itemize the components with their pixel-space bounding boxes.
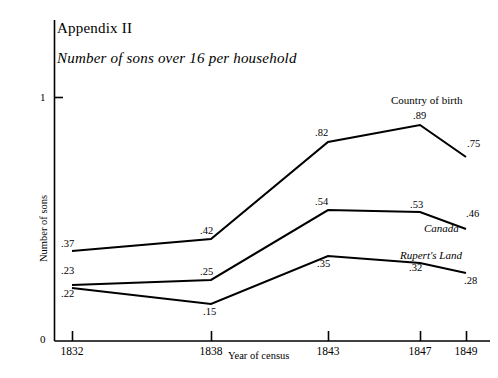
x-tick-label-1847: 1847: [409, 345, 432, 357]
y-axis-title: Number of sons: [38, 195, 49, 262]
point-label-cob-1832: .37: [61, 238, 74, 249]
point-label-rup-1832: .22: [61, 288, 74, 299]
point-label-cob-1849: .75: [467, 138, 480, 149]
series-line-ruperts-land: [72, 256, 466, 304]
point-label-cob-1847: .89: [413, 110, 426, 121]
point-label-cob-1843: .82: [315, 127, 328, 138]
point-label-rup-1847: .32: [409, 262, 422, 273]
point-label-can-1843: .54: [315, 196, 328, 207]
point-label-cob-1838: .42: [200, 225, 213, 236]
chart-page: Appendix II Number of sons over 16 per h…: [0, 0, 498, 378]
series-line-canada: [72, 210, 466, 285]
series-label-ruperts-land: Rupert's Land: [400, 249, 462, 261]
series-line-country-of-birth: [72, 125, 466, 251]
series-label-canada: Canada: [424, 222, 459, 234]
point-label-can-1838: .25: [200, 266, 213, 277]
series-label-country-of-birth: Country of birth: [391, 94, 463, 106]
x-tick-label-1843: 1843: [317, 345, 340, 357]
y-axis-value-top: 1: [40, 91, 46, 103]
point-label-rup-1843: .35: [317, 258, 330, 269]
x-tick-label-1849: 1849: [455, 345, 478, 357]
y-axis-value-bottom: 0: [40, 333, 46, 345]
x-axis-title: Year of census: [228, 350, 289, 361]
point-label-rup-1849: .28: [464, 275, 477, 286]
x-tick-label-1832: 1832: [61, 345, 84, 357]
point-label-can-1847: .53: [410, 199, 423, 210]
point-label-can-1832: .23: [61, 265, 74, 276]
x-tick-label-1838: 1838: [200, 345, 223, 357]
point-label-can-1849: .46: [466, 208, 479, 219]
point-label-rup-1838: .15: [203, 306, 216, 317]
chart-canvas: [0, 0, 498, 378]
